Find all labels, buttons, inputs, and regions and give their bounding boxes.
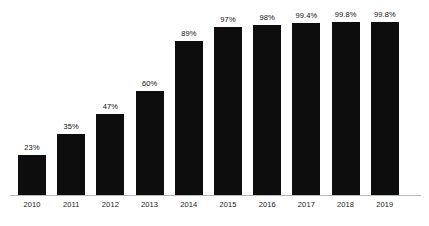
bar-group-2014[interactable]: 89%: [175, 29, 203, 195]
x-axis-tick-label: 2012: [96, 200, 124, 210]
bar[interactable]: [253, 25, 281, 195]
bar-value-label: 97%: [220, 15, 235, 24]
bar-value-label: 60%: [142, 79, 157, 88]
bar-group-2018[interactable]: 99.8%: [332, 10, 360, 195]
bar-value-label: 89%: [181, 29, 196, 38]
x-axis-tick-label: 2018: [332, 200, 360, 210]
x-axis-tick-label: 2019: [371, 200, 399, 210]
bar-value-label: 98%: [260, 13, 275, 22]
bar-value-label: 47%: [103, 102, 118, 111]
bar-group-2012[interactable]: 47%: [96, 102, 124, 195]
bar-group-2015[interactable]: 97%: [214, 15, 242, 195]
bar[interactable]: [214, 27, 242, 195]
bar[interactable]: [292, 23, 320, 195]
x-axis-tick-label: 2010: [18, 200, 46, 210]
bar-group-2011[interactable]: 35%: [57, 122, 85, 195]
bar-chart: 23%35%47%60%89%97%98%99.4%99.8%99.8% 201…: [0, 0, 429, 226]
bar-value-label: 99.8%: [335, 10, 357, 19]
bar[interactable]: [175, 41, 203, 195]
x-axis-tick-label: 2013: [136, 200, 164, 210]
x-axis-tick-label: 2015: [214, 200, 242, 210]
bar-value-label: 99.8%: [374, 10, 396, 19]
bar[interactable]: [136, 91, 164, 195]
x-axis-tick-label: 2014: [175, 200, 203, 210]
bar[interactable]: [18, 155, 46, 195]
bar-group-2016[interactable]: 98%: [253, 13, 281, 195]
bar-group-2017[interactable]: 99.4%: [292, 11, 320, 195]
bar-value-label: 23%: [24, 143, 39, 152]
bar[interactable]: [371, 22, 399, 195]
bar-value-label: 99.4%: [296, 11, 318, 20]
x-axis-line: [10, 195, 421, 196]
bar[interactable]: [96, 114, 124, 195]
bar-value-label: 35%: [64, 122, 79, 131]
plot-area: 23%35%47%60%89%97%98%99.4%99.8%99.8%: [0, 0, 429, 226]
x-axis-tick-label: 2017: [292, 200, 320, 210]
x-axis-tick-label: 2016: [253, 200, 281, 210]
bar-group-2019[interactable]: 99.8%: [371, 10, 399, 195]
bar[interactable]: [332, 22, 360, 195]
bar[interactable]: [57, 134, 85, 195]
x-axis-tick-label: 2011: [57, 200, 85, 210]
bar-group-2010[interactable]: 23%: [18, 143, 46, 195]
bar-group-2013[interactable]: 60%: [136, 79, 164, 195]
